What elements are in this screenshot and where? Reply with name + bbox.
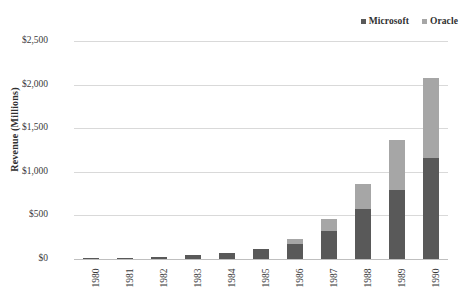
x-axis-tick: 1982: [142, 262, 176, 307]
revenue-bar-chart: Microsoft Oracle Revenue (Millions) $0$5…: [0, 0, 467, 307]
y-axis-tick-label: $0: [0, 253, 48, 263]
stacked-bar[interactable]: [253, 249, 269, 259]
stacked-bar[interactable]: [185, 255, 201, 259]
y-axis-tick-label: $2,500: [0, 35, 48, 45]
y-axis-tick-label: $500: [0, 209, 48, 219]
bar-segment-oracle[interactable]: [423, 78, 439, 158]
bar-group[interactable]: [380, 41, 414, 259]
bar-segment-oracle[interactable]: [355, 184, 371, 209]
x-axis-tick-label: 1986: [295, 269, 305, 288]
x-axis-tick-label: 1990: [431, 269, 441, 288]
bar-segment-microsoft[interactable]: [151, 257, 167, 259]
x-axis-tick-label: 1980: [91, 269, 101, 288]
bar-segment-microsoft[interactable]: [287, 244, 303, 259]
bar-series-container: [74, 41, 448, 259]
bar-group[interactable]: [108, 41, 142, 259]
x-axis-tick: 1981: [108, 262, 142, 307]
x-axis-tick-label: 1984: [227, 269, 237, 288]
y-axis-tick-label: $2,000: [0, 79, 48, 89]
bar-segment-oracle[interactable]: [321, 219, 337, 231]
x-axis-tick: 1985: [244, 262, 278, 307]
bar-segment-microsoft[interactable]: [219, 253, 235, 259]
stacked-bar[interactable]: [321, 219, 337, 259]
bar-segment-microsoft[interactable]: [185, 255, 201, 259]
stacked-bar[interactable]: [287, 239, 303, 259]
bar-segment-microsoft[interactable]: [117, 258, 133, 259]
bar-group[interactable]: [244, 41, 278, 259]
x-axis-tick: 1983: [176, 262, 210, 307]
y-axis-tick-label: $1,500: [0, 122, 48, 132]
x-axis-line: [74, 259, 448, 260]
square-marker-icon: [361, 19, 366, 24]
x-axis-tick-label: 1985: [261, 269, 271, 288]
stacked-bar[interactable]: [83, 258, 99, 259]
x-axis-tick-label: 1983: [193, 269, 203, 288]
x-axis-tick: 1989: [380, 262, 414, 307]
bar-segment-microsoft[interactable]: [389, 190, 405, 259]
legend-label-microsoft: Microsoft: [369, 16, 409, 26]
bar-segment-microsoft[interactable]: [83, 258, 99, 259]
bar-segment-microsoft[interactable]: [321, 231, 337, 259]
x-axis-tick: 1990: [414, 262, 448, 307]
x-axis-tick: 1988: [346, 262, 380, 307]
legend-item-oracle[interactable]: Oracle: [422, 16, 458, 26]
x-axis-tick-label: 1988: [363, 269, 373, 288]
stacked-bar[interactable]: [355, 184, 371, 259]
bar-group[interactable]: [414, 41, 448, 259]
y-axis-tick-label: $1,000: [0, 166, 48, 176]
bar-group[interactable]: [74, 41, 108, 259]
bar-group[interactable]: [142, 41, 176, 259]
x-axis-tick-label: 1981: [125, 269, 135, 288]
x-axis-tick: 1984: [210, 262, 244, 307]
bar-group[interactable]: [346, 41, 380, 259]
bar-segment-microsoft[interactable]: [253, 249, 269, 259]
x-axis-tick: 1987: [312, 262, 346, 307]
bar-group[interactable]: [210, 41, 244, 259]
x-axis-tick-label: 1989: [397, 269, 407, 288]
stacked-bar[interactable]: [423, 78, 439, 259]
stacked-bar[interactable]: [117, 258, 133, 259]
bar-segment-oracle[interactable]: [389, 140, 405, 190]
legend-label-oracle: Oracle: [430, 16, 458, 26]
x-axis-tick-label: 1982: [159, 269, 169, 288]
x-axis-ticks: 1980198119821983198419851986198719881989…: [74, 262, 448, 307]
bar-segment-microsoft[interactable]: [423, 158, 439, 259]
bar-segment-microsoft[interactable]: [355, 209, 371, 259]
stacked-bar[interactable]: [219, 253, 235, 259]
legend-item-microsoft[interactable]: Microsoft: [361, 16, 409, 26]
plot-area: $0$500$1,000$1,500$2,000$2,500: [74, 41, 448, 259]
stacked-bar[interactable]: [389, 140, 405, 259]
bar-group[interactable]: [312, 41, 346, 259]
stacked-bar[interactable]: [151, 257, 167, 259]
chart-legend: Microsoft Oracle: [0, 13, 467, 29]
square-marker-icon: [422, 19, 427, 24]
x-axis-tick: 1986: [278, 262, 312, 307]
x-axis-tick: 1980: [74, 262, 108, 307]
x-axis-tick-label: 1987: [329, 269, 339, 288]
bar-group[interactable]: [176, 41, 210, 259]
bar-group[interactable]: [278, 41, 312, 259]
